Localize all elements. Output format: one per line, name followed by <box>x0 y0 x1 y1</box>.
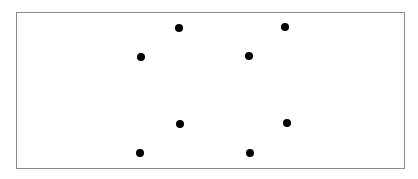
dot-marker <box>245 52 253 60</box>
dot-marker <box>176 120 184 128</box>
dot-marker <box>137 53 145 61</box>
dot-marker <box>281 23 289 31</box>
diagram-frame <box>16 12 405 169</box>
dot-marker <box>246 149 254 157</box>
dot-marker <box>175 24 183 32</box>
dot-marker <box>136 149 144 157</box>
dot-marker <box>283 119 291 127</box>
